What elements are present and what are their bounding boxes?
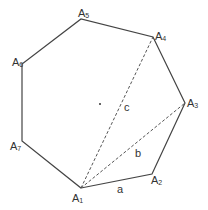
diagonal-b (81, 103, 185, 188)
vertex-label-a2: A2 (151, 174, 162, 186)
vertex-label-a1: A1 (72, 192, 83, 204)
vertex-label-a7: A7 (10, 140, 21, 152)
heptagon-diagram: A1A2A3A4A5A6A7 a b c (0, 0, 208, 210)
diagonal-label-b: b (135, 147, 141, 159)
center-point (99, 103, 101, 105)
vertex-label-a5: A5 (78, 7, 89, 19)
vertex-label-a3: A3 (187, 97, 198, 109)
side-label-a: a (117, 183, 124, 195)
diagonal-c (81, 37, 153, 188)
vertex-label-a6: A6 (12, 56, 23, 68)
vertex-labels: A1A2A3A4A5A6A7 (10, 7, 198, 204)
diagonal-label-c: c (124, 101, 130, 113)
heptagon-outline (22, 19, 185, 188)
vertex-label-a4: A4 (155, 30, 166, 42)
